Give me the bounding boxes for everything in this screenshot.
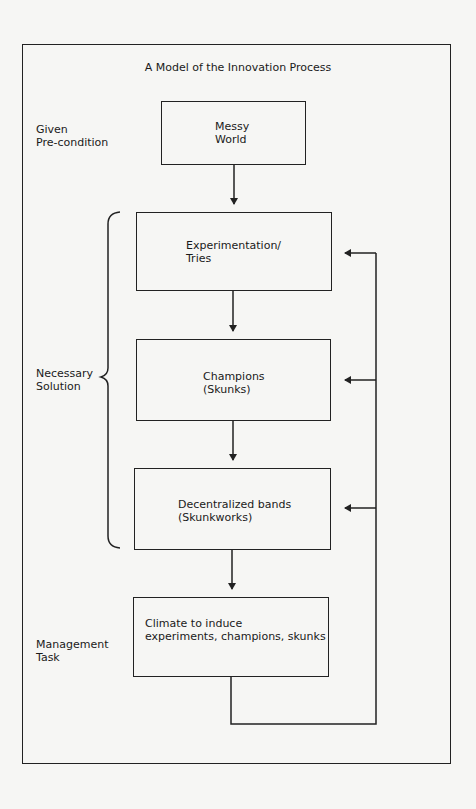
- feedback-loop-line: [231, 253, 376, 724]
- curly-brace-icon: [101, 212, 120, 548]
- connector-lines: [0, 0, 476, 809]
